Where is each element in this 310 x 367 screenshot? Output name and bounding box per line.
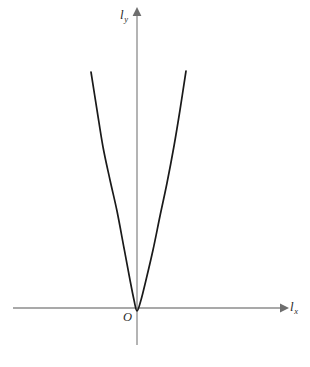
- plot-canvas: [0, 0, 310, 367]
- y-axis-arrowhead: [133, 7, 142, 16]
- origin-label: O: [123, 311, 132, 324]
- x-axis-label-subscript: x: [294, 306, 298, 316]
- y-axis-label-subscript: y: [124, 14, 128, 24]
- parabola-curve: [91, 71, 186, 311]
- parabola-figure: ly lx O: [0, 0, 310, 367]
- x-axis-arrowhead: [280, 304, 289, 313]
- x-axis-label: lx: [290, 300, 297, 313]
- y-axis-label: ly: [120, 8, 127, 21]
